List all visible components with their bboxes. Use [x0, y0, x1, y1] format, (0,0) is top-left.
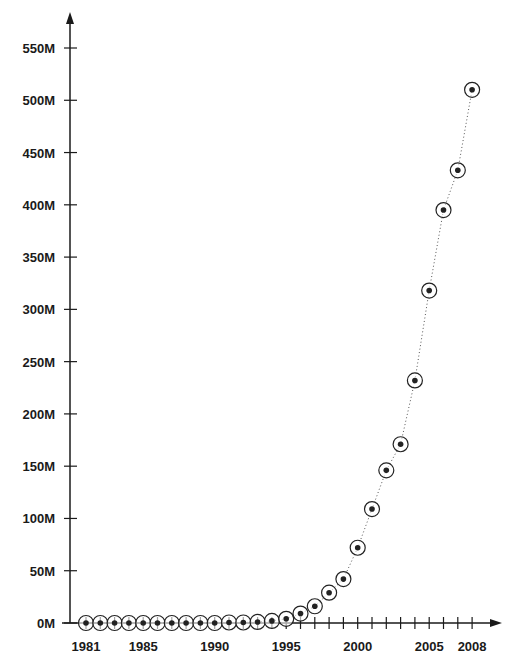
- marker-dot-icon: [326, 590, 332, 596]
- data-point: [436, 203, 451, 218]
- data-point: [279, 611, 294, 626]
- series-line-path: [86, 90, 472, 623]
- x-tick-label: 1981: [72, 639, 101, 654]
- marker-dot-icon: [369, 506, 375, 512]
- marker-dot-icon: [140, 620, 146, 626]
- marker-dot-icon: [126, 620, 132, 626]
- y-tick-label: 250M: [22, 355, 55, 370]
- data-point: [193, 616, 208, 631]
- data-point: [407, 373, 422, 388]
- data-point: [207, 616, 222, 631]
- data-point: [150, 616, 165, 631]
- data-point: [79, 616, 94, 631]
- y-axis: 0M50M100M150M200M250M300M350M400M450M500…: [22, 12, 77, 631]
- marker-dot-icon: [169, 620, 175, 626]
- marker-dot-icon: [155, 620, 161, 626]
- marker-dot-icon: [298, 611, 304, 617]
- y-tick-label: 100M: [22, 511, 55, 526]
- data-markers: [79, 82, 480, 630]
- data-point: [164, 616, 179, 631]
- marker-dot-icon: [469, 87, 475, 93]
- data-point: [465, 82, 480, 97]
- marker-dot-icon: [269, 618, 275, 624]
- marker-dot-icon: [312, 603, 318, 609]
- marker-dot-icon: [412, 378, 418, 384]
- y-tick-label: 300M: [22, 302, 55, 317]
- marker-dot-icon: [384, 468, 390, 474]
- data-point: [222, 615, 237, 630]
- data-point: [107, 616, 122, 631]
- x-tick-label: 2008: [458, 639, 487, 654]
- y-tick-label: 550M: [22, 41, 55, 56]
- data-point: [264, 613, 279, 628]
- marker-dot-icon: [426, 288, 432, 294]
- marker-dot-icon: [241, 620, 247, 626]
- marker-dot-icon: [283, 616, 289, 622]
- series-line: [86, 90, 472, 623]
- data-point: [365, 502, 380, 517]
- data-point: [250, 614, 265, 629]
- marker-dot-icon: [83, 620, 89, 626]
- x-tick-label: 1985: [129, 639, 158, 654]
- data-point: [379, 463, 394, 478]
- data-point: [393, 437, 408, 452]
- y-tick-label: 0M: [37, 616, 55, 631]
- y-tick-label: 200M: [22, 407, 55, 422]
- data-point: [293, 606, 308, 621]
- marker-dot-icon: [441, 207, 447, 213]
- marker-dot-icon: [198, 620, 204, 626]
- y-tick-label: 350M: [22, 250, 55, 265]
- x-tick-label: 1995: [272, 639, 301, 654]
- y-tick-label: 50M: [30, 564, 55, 579]
- y-tick-label: 150M: [22, 459, 55, 474]
- data-point: [336, 572, 351, 587]
- marker-dot-icon: [355, 545, 361, 551]
- marker-dot-icon: [112, 620, 118, 626]
- data-point: [136, 616, 151, 631]
- marker-dot-icon: [98, 620, 104, 626]
- marker-dot-icon: [226, 620, 232, 626]
- data-point: [422, 283, 437, 298]
- marker-dot-icon: [212, 620, 218, 626]
- data-point: [93, 616, 108, 631]
- y-tick-label: 400M: [22, 198, 55, 213]
- data-point: [121, 616, 136, 631]
- x-axis-arrow-icon: [490, 619, 502, 627]
- data-point: [236, 615, 251, 630]
- marker-dot-icon: [183, 620, 189, 626]
- data-point: [450, 163, 465, 178]
- x-tick-label: 2005: [415, 639, 444, 654]
- y-tick-label: 450M: [22, 146, 55, 161]
- data-point: [307, 599, 322, 614]
- y-axis-arrow-icon: [66, 12, 74, 24]
- marker-dot-icon: [398, 441, 404, 447]
- marker-dot-icon: [455, 168, 461, 174]
- y-tick-label: 500M: [22, 93, 55, 108]
- data-point: [322, 585, 337, 600]
- x-tick-label: 1990: [200, 639, 229, 654]
- x-tick-label: 2000: [343, 639, 372, 654]
- marker-dot-icon: [341, 576, 347, 582]
- data-point: [179, 616, 194, 631]
- marker-dot-icon: [255, 619, 261, 625]
- line-chart: 0M50M100M150M200M250M300M350M400M450M500…: [0, 0, 508, 669]
- data-point: [350, 540, 365, 555]
